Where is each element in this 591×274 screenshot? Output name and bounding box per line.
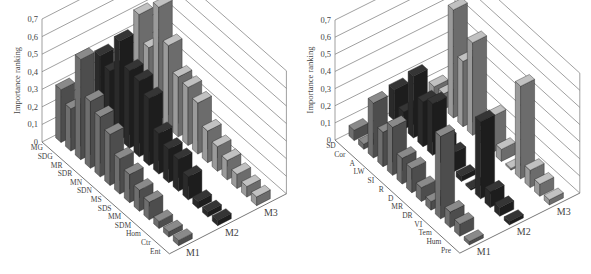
svg-text:0,4: 0,4 xyxy=(320,66,331,76)
svg-text:M2: M2 xyxy=(517,226,531,237)
svg-text:0,2: 0,2 xyxy=(27,102,38,112)
svg-text:DR: DR xyxy=(402,211,412,220)
svg-text:0,7: 0,7 xyxy=(27,14,38,24)
svg-text:Hom: Hom xyxy=(126,229,141,238)
svg-text:0,5: 0,5 xyxy=(320,49,331,59)
chart-svg: 00,10,20,30,40,50,60,7Importance ranking… xyxy=(0,0,296,274)
y-axis-ticks: 00,10,20,30,40,50,60,7 xyxy=(27,14,38,147)
svg-text:0,5: 0,5 xyxy=(27,49,38,59)
svg-text:0,2: 0,2 xyxy=(320,101,331,111)
svg-text:Hum: Hum xyxy=(426,237,441,246)
bars xyxy=(349,0,563,245)
svg-text:M3: M3 xyxy=(557,206,571,217)
svg-text:D: D xyxy=(388,194,394,203)
svg-text:VI: VI xyxy=(414,220,422,229)
svg-text:0,4: 0,4 xyxy=(27,67,38,77)
svg-text:R: R xyxy=(379,185,384,194)
svg-text:SI: SI xyxy=(368,176,375,185)
y-axis-label: Importance ranking xyxy=(12,46,22,114)
svg-text:A: A xyxy=(350,159,356,168)
chart-right-3d-bar: 00,10,20,30,40,50,60,7Importance ranking… xyxy=(296,0,591,274)
series-labels: M1M2M3 xyxy=(477,206,571,257)
series-labels: M1M2M3 xyxy=(186,207,278,258)
svg-text:0,3: 0,3 xyxy=(27,84,38,94)
bars xyxy=(56,0,271,246)
svg-text:M1: M1 xyxy=(477,246,491,257)
svg-text:0,1: 0,1 xyxy=(27,119,38,129)
svg-text:0,6: 0,6 xyxy=(27,32,38,42)
y-axis-ticks: 00,10,20,30,40,50,60,7 xyxy=(320,15,331,145)
y-axis-label: Importance ranking xyxy=(305,46,315,114)
svg-text:Cor: Cor xyxy=(334,150,346,159)
svg-text:MR: MR xyxy=(391,202,403,211)
svg-text:M2: M2 xyxy=(225,227,239,238)
svg-text:0,1: 0,1 xyxy=(320,118,331,128)
svg-text:Ent: Ent xyxy=(150,247,161,256)
svg-text:M3: M3 xyxy=(264,207,278,218)
svg-text:M1: M1 xyxy=(186,247,200,258)
svg-text:0,6: 0,6 xyxy=(320,32,331,42)
svg-text:LW: LW xyxy=(353,167,365,176)
svg-text:Tem: Tem xyxy=(419,228,432,237)
svg-text:SD: SD xyxy=(326,141,336,150)
svg-text:Pre: Pre xyxy=(441,246,452,255)
chart-left-3d-bar: 00,10,20,30,40,50,60,7Importance ranking… xyxy=(0,0,296,274)
chart-svg: 00,10,20,30,40,50,60,7Importance ranking… xyxy=(296,0,591,274)
svg-text:0,7: 0,7 xyxy=(320,15,331,25)
svg-text:0,3: 0,3 xyxy=(320,84,331,94)
